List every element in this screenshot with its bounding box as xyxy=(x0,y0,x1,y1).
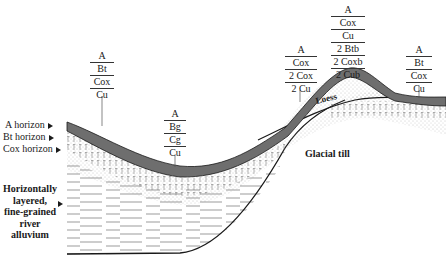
label-river-alluvium: Horizontally layered, fine-grained river… xyxy=(2,183,58,241)
profile-slope: A Cox 2 Cox 2 Cu xyxy=(283,44,319,94)
profile-upland-right: A Bt Cox Cu xyxy=(405,44,433,94)
label-bt-horizon: Bt horizon xyxy=(3,131,54,142)
soil-cross-section xyxy=(0,0,446,263)
pointer-arrow-icon xyxy=(58,201,63,207)
profile-summit: A Cox Cu 2 Btb 2 Coxb 2 Cub xyxy=(327,4,369,80)
label-cox-horizon: Cox horizon xyxy=(3,143,61,154)
pointer-arrow-icon xyxy=(48,123,53,129)
label-a-horizon: A horizon xyxy=(5,119,53,130)
pointer-arrow-icon xyxy=(56,147,61,153)
label-glacial-till: Glacial till xyxy=(305,148,350,159)
profile-upland-left: A Bt Cox Cu xyxy=(89,50,115,100)
pointer-arrow-icon xyxy=(49,135,54,141)
profile-lowland: A Bg Cg Cu xyxy=(162,108,188,158)
